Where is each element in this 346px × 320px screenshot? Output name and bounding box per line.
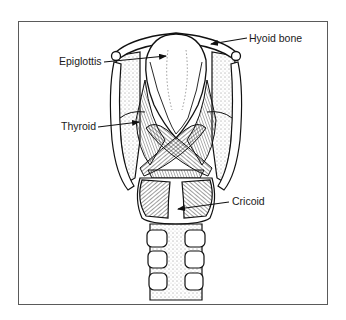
larynx-diagram: Hyoid bone Epiglottis Thyroid Cricoid: [0, 0, 346, 320]
larynx-illustration: [0, 0, 346, 320]
cricoid-label: Cricoid: [232, 196, 265, 207]
epiglottis-label: Epiglottis: [59, 56, 102, 67]
thyroid-label: Thyroid: [61, 121, 96, 132]
hyoid-bone-label: Hyoid bone: [249, 33, 302, 44]
cricoid-cartilage: [137, 178, 214, 224]
trachea: [147, 224, 205, 300]
